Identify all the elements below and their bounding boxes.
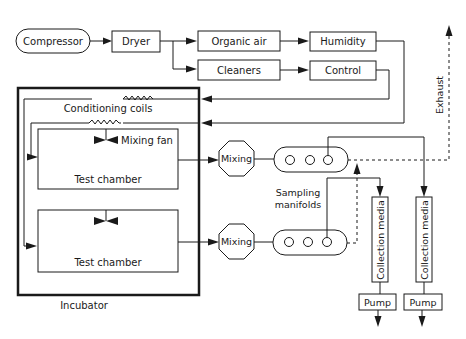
mixing-label: Mixing [221, 153, 252, 164]
collection-media-label: Collection media [419, 200, 430, 280]
test-chamber-upper: Mixing fan Test chamber [38, 129, 178, 189]
compressor-node: Compressor [16, 29, 90, 53]
pump-left: Pump [359, 294, 396, 310]
arrow-icon [354, 163, 361, 174]
dryer-node: Dryer [112, 31, 160, 52]
arrow-icon [419, 316, 426, 327]
humidity-node: Humidity [310, 32, 376, 51]
mixing-fan-label: Mixing fan [121, 135, 173, 146]
arrow-icon [186, 66, 197, 73]
sampling-manifold-upper [274, 147, 348, 172]
arrow-icon [208, 239, 219, 246]
arrow-icon [375, 316, 382, 327]
arrow-icon [298, 38, 309, 45]
test-chamber-label: Test chamber [73, 257, 142, 268]
pump-label: Pump [410, 297, 437, 308]
sampling-manifold-lower [273, 230, 347, 255]
compressor-label: Compressor [23, 36, 84, 47]
organic-air-node: Organic air [198, 31, 280, 51]
sampling-manifolds-label-line1: Sampling [276, 187, 320, 198]
collection-media-left: Collection media [372, 197, 388, 282]
coil-icon [89, 120, 121, 124]
pump-label: Pump [364, 297, 391, 308]
exhaust-label: Exhaust [434, 76, 445, 114]
arrow-icon [421, 186, 428, 197]
arrow-icon [26, 243, 37, 250]
diagram-canvas: Compressor Dryer Organic air Cleaners Hu… [0, 0, 466, 339]
collection-media-label: Collection media [375, 200, 386, 280]
arrow-icon [186, 38, 197, 45]
arrow-icon [27, 154, 38, 161]
cleaners-label: Cleaners [217, 65, 261, 76]
arrow-icon [298, 67, 309, 74]
cleaners-node: Cleaners [198, 60, 280, 80]
arrow-icon [201, 96, 212, 103]
exhaust-arrow-icon [446, 25, 453, 36]
humidity-label: Humidity [320, 36, 365, 47]
sampling-manifolds-label-line2: manifolds [275, 199, 322, 210]
arrow-icon [208, 157, 219, 164]
conditioning-coils-label: Conditioning coils [64, 103, 153, 114]
mixing-node-lower: Mixing [219, 224, 254, 259]
test-chamber-lower: Test chamber [38, 210, 178, 272]
mixing-label: Mixing [221, 236, 252, 247]
arrow-icon [103, 38, 112, 45]
control-label: Control [325, 65, 361, 76]
arrow-icon [377, 186, 384, 197]
organic-air-label: Organic air [211, 36, 267, 47]
dryer-label: Dryer [122, 36, 151, 47]
collection-media-right: Collection media [416, 197, 432, 282]
arrow-icon [201, 120, 212, 127]
mixing-node-upper: Mixing [219, 141, 254, 176]
test-chamber-label: Test chamber [73, 174, 142, 185]
incubator-label: Incubator [60, 300, 109, 311]
control-node: Control [310, 61, 376, 80]
pump-right: Pump [404, 294, 442, 310]
